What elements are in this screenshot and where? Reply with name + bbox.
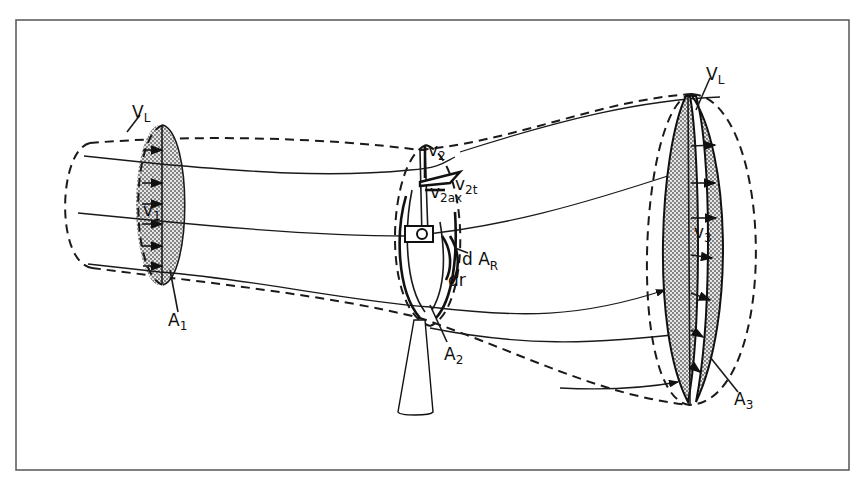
turbine-tower [398, 320, 433, 415]
label-vl-right: VL [706, 64, 725, 87]
label-dr: dr [448, 270, 466, 290]
label-v2: v2 [428, 140, 446, 163]
section-a3 [663, 96, 723, 404]
label-vl-left: VL [132, 102, 151, 125]
rotor-disk-a2 [395, 145, 460, 326]
label-a1: A1 [168, 310, 187, 333]
stream-tube-diagram: VL v1 A1 v2 v2t v2ax d AR dr A2 VL v3 A3 [0, 0, 860, 486]
label-a2: A2 [444, 344, 463, 367]
label-dar: d AR [462, 249, 498, 273]
label-a3: A3 [734, 389, 753, 412]
